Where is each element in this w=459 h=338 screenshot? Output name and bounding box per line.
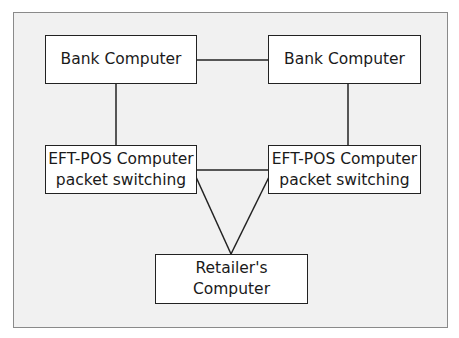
retailer-computer-node: Retailer's Computer [155,254,308,304]
node-label-line-2: packet switching [279,170,409,191]
node-label: Retailer's Computer [156,258,307,300]
node-label-line-1: EFT-POS Computer [272,149,417,170]
eft-pos-computer-right-node: EFT-POS Computer packet switching [268,145,421,194]
edge-eft-left-retailer [196,177,231,254]
node-label: Bank Computer [284,49,405,70]
edge-eft-right-retailer [231,177,269,254]
eft-pos-computer-left-node: EFT-POS Computer packet switching [45,145,197,194]
bank-computer-left-node: Bank Computer [45,35,197,84]
node-label-line-2: packet switching [56,170,186,191]
node-label-line-1: EFT-POS Computer [48,149,193,170]
bank-computer-right-node: Bank Computer [268,35,421,84]
node-label: Bank Computer [61,49,182,70]
